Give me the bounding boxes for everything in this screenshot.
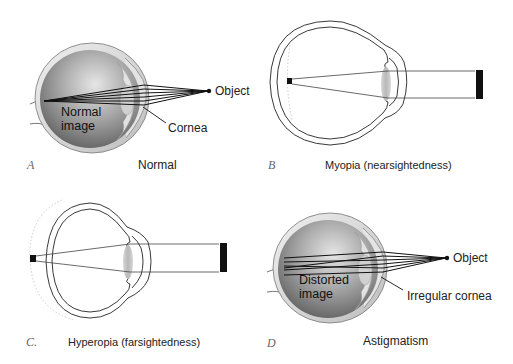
object-point-icon <box>445 256 449 260</box>
panel-letter: D <box>266 336 276 350</box>
focused-image-icon <box>287 78 292 84</box>
panel-letter: C. <box>26 335 37 349</box>
panel-letter: B <box>268 158 276 172</box>
object-bar-icon <box>220 243 227 272</box>
focused-image-icon <box>30 255 36 262</box>
panel-b-myopia: B Myopia (nearsightedness) <box>268 21 483 172</box>
object-label: Object <box>453 251 488 265</box>
panel-d-astigmatism: Object Distorted image Irregular cornea … <box>266 213 492 350</box>
object-label: Object <box>215 84 250 98</box>
image-label-line2: image <box>299 287 333 301</box>
panel-caption: Myopia (nearsightedness) <box>325 159 452 171</box>
panel-c-hyperopia: C. Hyperopia (farsightedness) <box>26 200 227 349</box>
eye-refraction-diagram: Object Normal image Cornea A Normal <box>0 0 513 364</box>
image-label-line2: image <box>61 119 95 133</box>
lens <box>381 67 391 101</box>
panel-caption: Normal <box>138 158 177 172</box>
panel-letter: A <box>26 158 35 172</box>
cornea-label: Cornea <box>168 121 208 135</box>
image-label-line1: Normal <box>61 105 101 119</box>
object-bar-icon <box>476 70 483 99</box>
panel-a-normal: Object Normal image Cornea A Normal <box>26 43 250 172</box>
object-point-icon <box>207 89 211 93</box>
lens <box>123 245 133 279</box>
panel-caption: Hyperopia (farsightedness) <box>68 336 200 348</box>
eye-outline-icon <box>46 203 151 318</box>
irregular-cornea-label: Irregular cornea <box>407 289 492 303</box>
panel-caption: Astigmatism <box>363 334 428 348</box>
image-label-line1: Distorted <box>299 273 349 287</box>
